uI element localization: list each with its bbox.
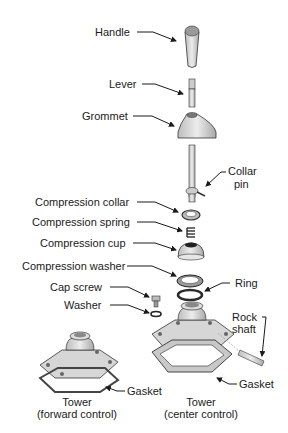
label-collar-pin-line1: Collar [228, 165, 257, 177]
label-compression-washer: Compression washer [22, 260, 125, 272]
label-compression-spring: Compression spring [32, 216, 130, 228]
ring-part [178, 290, 202, 300]
label-compression-collar: Compression collar [35, 196, 129, 208]
label-rock-shaft-line2: shaft [232, 323, 256, 335]
grommet-part [178, 113, 216, 139]
cap-screw-part [152, 296, 160, 307]
label-tower-forward-line2: (forward control) [22, 408, 132, 420]
label-compression-cup: Compression cup [40, 237, 126, 249]
label-rock-shaft-line1: Rock [232, 311, 257, 323]
label-lever: Lever [109, 78, 137, 90]
lever-shaft-part [186, 145, 205, 202]
compression-spring-part [187, 228, 195, 237]
label-gasket-center: Gasket [239, 378, 274, 390]
label-ring: Ring [235, 277, 258, 289]
label-tower-forward-line1: Tower [32, 396, 122, 408]
label-washer: Washer [64, 299, 102, 311]
label-cap-screw: Cap screw [50, 281, 102, 293]
tower-forward-part [40, 332, 118, 392]
washer-part [151, 312, 161, 317]
handle-part [185, 26, 199, 68]
label-grommet: Grommet [82, 110, 128, 122]
label-collar-pin-line2: pin [234, 178, 249, 190]
label-tower-center-line2: (center control) [146, 408, 256, 420]
lever-part [189, 79, 195, 107]
label-tower-center-line1: Tower [156, 396, 246, 408]
compression-cup-part [178, 243, 204, 261]
label-handle: Handle [95, 26, 130, 38]
